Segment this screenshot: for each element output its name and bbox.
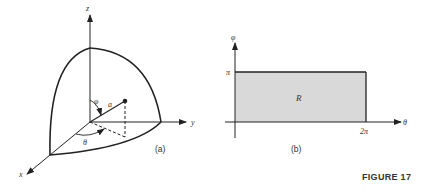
y-axis-label: y xyxy=(190,118,195,127)
theta-axis-label: θ xyxy=(403,118,407,127)
panel-b-caption: (b) xyxy=(291,144,302,154)
x-axis xyxy=(27,122,90,174)
panel-a-caption: (a) xyxy=(155,144,166,154)
sphere-arc-top-right xyxy=(90,48,161,122)
figure-canvas: z y x φ a θ (a) φ θ π 2π R (b) FIGURE 17 xyxy=(0,0,426,193)
radius-label: a xyxy=(108,100,112,109)
phi-label: φ xyxy=(94,97,99,106)
phi-axis-label: φ xyxy=(231,33,236,42)
z-axis-label: z xyxy=(85,4,90,13)
panel-b: φ θ π 2π R (b) xyxy=(225,33,407,154)
x-axis-label: x xyxy=(18,170,23,179)
projection-base xyxy=(90,122,125,137)
tick-pi: π xyxy=(226,68,231,77)
theta-label: θ xyxy=(83,138,87,147)
panel-a: z y x φ a θ (a) xyxy=(18,4,195,179)
figure-label: FIGURE 17 xyxy=(362,172,411,182)
region-label: R xyxy=(295,93,302,103)
sphere-arc-bottom xyxy=(50,122,161,155)
tick-2pi: 2π xyxy=(360,127,369,136)
